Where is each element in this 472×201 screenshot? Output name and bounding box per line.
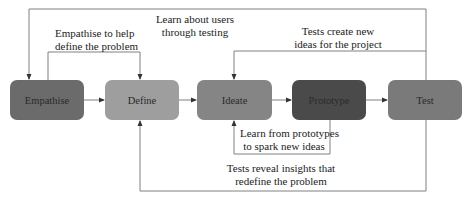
stage-label: Prototype [309, 95, 350, 106]
annotation-prototype-ideate: Learn from prototypes to spark new ideas [240, 127, 328, 153]
annotation-line: define the problem [55, 40, 133, 53]
stage-label: Empathise [25, 95, 69, 106]
stage-prototype: Prototype [292, 80, 366, 120]
annotation-line: Tests create new [292, 25, 384, 38]
annotation-test-empathise: Learn about users through testing [155, 13, 235, 39]
stage-label: Test [416, 95, 433, 106]
annotation-test-define: Tests reveal insights that redefine the … [226, 162, 336, 188]
annotation-test-ideate: Tests create new ideas for the project [292, 25, 384, 51]
loop-test-ideate [234, 51, 426, 79]
annotation-line: redefine the problem [226, 175, 336, 188]
annotation-line: through testing [155, 26, 235, 39]
annotation-line: to spark new ideas [240, 140, 328, 153]
loop-empathise-define [48, 52, 140, 80]
annotation-empathise-define: Empathise to help define the problem [55, 27, 133, 53]
stage-define: Define [105, 80, 179, 120]
stage-test: Test [388, 80, 462, 120]
annotation-line: Learn about users [155, 13, 235, 26]
stage-ideate: Ideate [197, 80, 272, 120]
stage-empathise: Empathise [10, 80, 84, 120]
annotation-line: Empathise to help [55, 27, 133, 40]
stage-label: Define [128, 95, 157, 106]
annotation-line: Learn from prototypes [240, 127, 328, 140]
annotation-line: Tests reveal insights that [226, 162, 336, 175]
stage-label: Ideate [222, 95, 248, 106]
annotation-line: ideas for the project [292, 38, 384, 51]
